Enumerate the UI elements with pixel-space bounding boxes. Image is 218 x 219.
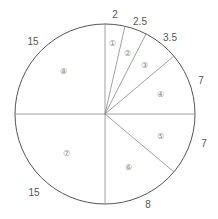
segment-marker-6: ⑥ xyxy=(125,163,132,172)
segment-marker-3: ③ xyxy=(141,61,148,70)
segment-value-6: 8 xyxy=(145,199,151,210)
pie-diagram: ① ② ③ ④ ⑤ ⑥ ⑦ ⑧ 2 2.5 3.5 7 7 8 15 15 xyxy=(0,0,218,219)
segment-value-5: 7 xyxy=(201,138,207,149)
division-lines xyxy=(15,24,195,204)
segment-value-4: 7 xyxy=(198,75,204,86)
segment-marker-8: ⑧ xyxy=(60,67,67,76)
segment-value-3: 3.5 xyxy=(163,32,177,43)
segment-value-1: 2 xyxy=(112,9,118,20)
segment-marker-2: ② xyxy=(124,49,131,58)
segment-value-2: 2.5 xyxy=(133,16,147,27)
segment-value-7: 15 xyxy=(28,187,40,198)
segment-marker-5: ⑤ xyxy=(157,132,164,141)
segment-value-8: 15 xyxy=(27,36,39,47)
segment-marker-4: ④ xyxy=(157,90,164,99)
segment-marker-7: ⑦ xyxy=(63,149,70,158)
segment-marker-1: ① xyxy=(109,39,116,48)
